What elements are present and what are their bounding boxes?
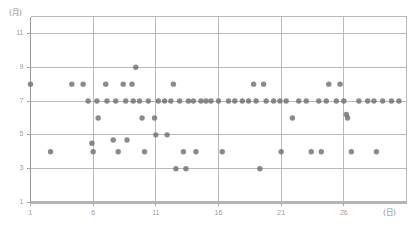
y-tick-label: 5: [4, 130, 24, 137]
x-tick-label: 6: [83, 209, 103, 216]
data-point: [121, 81, 126, 86]
data-point: [137, 98, 142, 103]
data-point: [198, 98, 203, 103]
grid-lines: [31, 17, 407, 203]
data-point: [113, 98, 118, 103]
data-point: [116, 149, 121, 154]
y-tick-label: 1: [4, 198, 24, 205]
data-point: [208, 98, 213, 103]
data-point: [374, 149, 379, 154]
data-point: [124, 137, 129, 142]
y-tick-label: 9: [4, 63, 24, 70]
data-point: [389, 98, 394, 103]
data-point: [153, 132, 158, 137]
data-point: [216, 98, 221, 103]
data-point-series: [28, 65, 402, 172]
data-point: [309, 149, 314, 154]
data-point: [345, 115, 350, 120]
y-tick-label: 11: [4, 29, 24, 36]
data-point: [296, 98, 301, 103]
data-point: [316, 98, 321, 103]
data-point: [324, 98, 329, 103]
data-point: [326, 81, 331, 86]
y-axis-unit-label: (月): [9, 6, 22, 17]
x-tick-label: 26: [334, 209, 354, 216]
data-point: [173, 166, 178, 171]
data-point: [263, 98, 268, 103]
scatter-chart-figure: (月) (日) 1357911 1611162126: [0, 0, 412, 234]
tick-marks: [27, 33, 344, 206]
data-point: [183, 166, 188, 171]
data-point: [396, 98, 401, 103]
data-point: [177, 98, 182, 103]
x-tick-label: 21: [271, 209, 291, 216]
x-tick-label: 1: [21, 209, 41, 216]
data-point: [203, 98, 208, 103]
data-point: [349, 149, 354, 154]
data-point: [271, 98, 276, 103]
data-point: [171, 81, 176, 86]
data-point: [80, 81, 85, 86]
data-point: [69, 81, 74, 86]
data-point: [253, 98, 258, 103]
data-point: [365, 98, 370, 103]
data-point: [94, 98, 99, 103]
x-tick-label: 16: [209, 209, 229, 216]
data-point: [131, 98, 136, 103]
data-point: [337, 81, 342, 86]
data-point: [28, 81, 33, 86]
data-point: [278, 149, 283, 154]
data-point: [156, 98, 161, 103]
data-point: [277, 98, 282, 103]
data-point: [139, 115, 144, 120]
x-tick-label: 11: [146, 209, 166, 216]
data-point: [90, 149, 95, 154]
data-point: [123, 98, 128, 103]
data-point: [111, 137, 116, 142]
data-point: [191, 98, 196, 103]
data-point: [181, 149, 186, 154]
data-point: [193, 149, 198, 154]
data-point: [380, 98, 385, 103]
x-axis-unit-label: (日): [383, 206, 396, 217]
data-point: [356, 98, 361, 103]
data-point: [334, 98, 339, 103]
data-point: [129, 81, 134, 86]
data-point: [220, 149, 225, 154]
data-point: [261, 81, 266, 86]
data-point: [304, 98, 309, 103]
data-point: [168, 98, 173, 103]
data-point: [103, 81, 108, 86]
data-point: [164, 132, 169, 137]
data-point: [95, 115, 100, 120]
data-point: [146, 98, 151, 103]
data-point: [251, 81, 256, 86]
data-point: [290, 115, 295, 120]
data-point: [142, 149, 147, 154]
plot-canvas: [0, 0, 412, 234]
data-point: [133, 65, 138, 70]
data-point: [104, 98, 109, 103]
data-point: [48, 149, 53, 154]
data-point: [341, 98, 346, 103]
data-point: [371, 98, 376, 103]
data-point: [319, 149, 324, 154]
y-tick-label: 7: [4, 97, 24, 104]
data-point: [162, 98, 167, 103]
data-point: [283, 98, 288, 103]
data-point: [152, 115, 157, 120]
data-point: [85, 98, 90, 103]
data-point: [232, 98, 237, 103]
data-point: [226, 98, 231, 103]
data-point: [186, 98, 191, 103]
data-point: [246, 98, 251, 103]
data-point: [89, 141, 94, 146]
y-tick-label: 3: [4, 164, 24, 171]
data-point: [240, 98, 245, 103]
data-point: [257, 166, 262, 171]
